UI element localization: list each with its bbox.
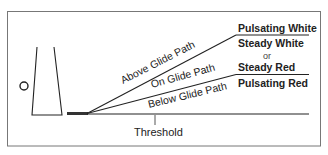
glide-path-diagram: Above Glide Path On Glide Path Below Gli…: [0, 0, 328, 155]
or-label: or: [263, 51, 271, 61]
steady-white-label: Steady White: [238, 37, 304, 49]
observer-circle-icon: [20, 82, 28, 90]
light-unit-trapezoid-icon: [32, 47, 62, 115]
pulsating-red-label: Pulsating Red: [238, 77, 308, 89]
pulsating-white-label: Pulsating White: [238, 22, 317, 34]
threshold-bar: [67, 112, 88, 115]
steady-red-label: Steady Red: [238, 61, 295, 73]
threshold-label: Threshold: [134, 126, 183, 138]
